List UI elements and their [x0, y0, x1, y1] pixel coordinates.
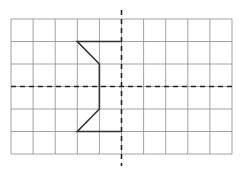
grid-diagram	[0, 0, 241, 169]
